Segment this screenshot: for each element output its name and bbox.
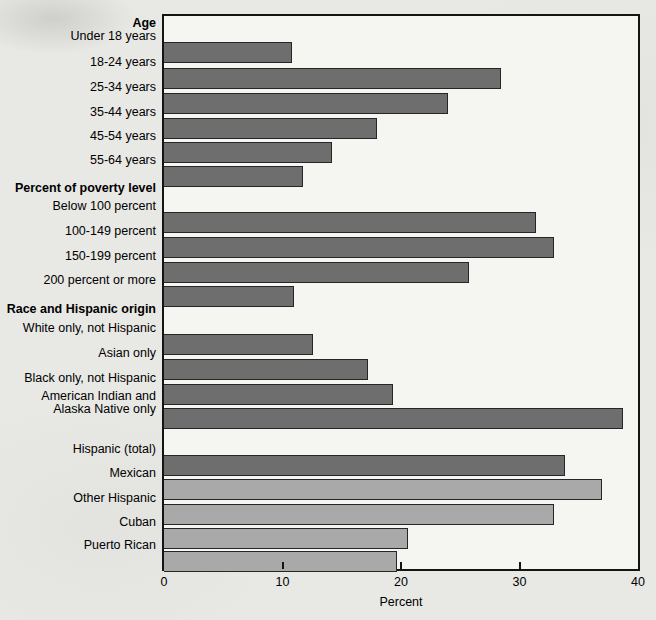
x-axis-tick (519, 562, 521, 569)
bar-45-54-years (164, 142, 332, 163)
row-label-puerto-rican: Puerto Rican (84, 539, 156, 553)
plot-inner (164, 16, 638, 569)
row-label-white-only-not-hispanic: White only, not Hispanic (23, 322, 156, 336)
x-axis-tick-label-30: 30 (513, 575, 527, 589)
row-label-cuban: Cuban (119, 516, 156, 530)
x-axis-tick (282, 562, 284, 569)
chart-figure: AgeUnder 18 years18-24 years25-34 years3… (0, 0, 656, 620)
row-label-45-54-years: 45-54 years (90, 130, 156, 144)
plot-area (162, 14, 640, 571)
row-label-asian-only: Asian only (98, 347, 156, 361)
bar-150-199-percent (164, 262, 469, 283)
bar-25-34-years (164, 93, 448, 114)
bar-other-hispanic (164, 504, 554, 525)
bar-american-indian-and-alaska-native-only (164, 408, 623, 429)
row-label-100-149-percent: 100-149 percent (65, 225, 156, 239)
x-axis-title: Percent (379, 595, 422, 609)
x-axis-tick-label-20: 20 (394, 575, 408, 589)
bar-hispanic-total (164, 455, 565, 476)
bar-white-only-not-hispanic (164, 334, 313, 355)
bar-200-percent-or-more (164, 286, 294, 307)
group-header-race-and-hispanic-origin: Race and Hispanic origin (7, 303, 156, 317)
row-label-150-199-percent: 150-199 percent (65, 250, 156, 264)
bar-below-100-percent (164, 212, 536, 233)
bar-mexican (164, 479, 602, 500)
x-axis-tick (400, 562, 402, 569)
row-label-25-34-years: 25-34 years (90, 81, 156, 95)
bar-asian-only (164, 359, 368, 380)
group-header-percent-of-poverty-level: Percent of poverty level (15, 182, 156, 196)
bar-cuban (164, 528, 408, 549)
row-label-below-100-percent: Below 100 percent (52, 200, 156, 214)
bar-100-149-percent (164, 237, 554, 258)
row-label-black-only-not-hispanic: Black only, not Hispanic (24, 372, 156, 386)
row-label-18-24-years: 18-24 years (90, 56, 156, 70)
row-label-other-hispanic: Other Hispanic (73, 492, 156, 506)
bar-55-64-years (164, 166, 303, 187)
row-label-200-percent-or-more: 200 percent or more (43, 274, 156, 288)
row-label-american-indian-and-alaska-native-only: American Indian and Alaska Native only (41, 389, 156, 416)
row-label-under-18-years: Under 18 years (71, 30, 156, 44)
x-axis-tick-label-10: 10 (276, 575, 290, 589)
row-label-55-64-years: 55-64 years (90, 154, 156, 168)
row-label-35-44-years: 35-44 years (90, 106, 156, 120)
bar-under-18-years (164, 42, 292, 63)
x-axis-tick-label-40: 40 (631, 575, 645, 589)
bar-35-44-years (164, 118, 377, 139)
row-label-mexican: Mexican (109, 467, 156, 481)
bar-18-24-years (164, 68, 501, 89)
bar-black-only-not-hispanic (164, 384, 393, 405)
x-axis-tick-label-0: 0 (161, 575, 168, 589)
row-label-hispanic-total: Hispanic (total) (73, 443, 156, 457)
